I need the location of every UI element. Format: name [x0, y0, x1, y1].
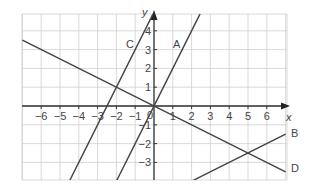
x-tick-label: −4: [73, 110, 86, 122]
y-tick-label: 4: [145, 25, 151, 37]
x-axis-label: x: [285, 111, 292, 123]
y-tick-label: −3: [138, 156, 151, 168]
x-tick-label: 2: [189, 110, 195, 122]
x-tick-label: −2: [110, 110, 123, 122]
y-axis-label: y: [141, 6, 149, 18]
x-tick-label: −5: [54, 110, 67, 122]
x-tick-label: 4: [226, 110, 232, 122]
line-label-a: A: [173, 38, 181, 50]
line-label-c: C: [126, 38, 134, 50]
y-tick-label: 3: [145, 44, 151, 56]
line-b: [192, 134, 286, 181]
x-tick-label: 3: [207, 110, 213, 122]
x-tick-label: 6: [264, 110, 270, 122]
line-label-b: B: [291, 127, 298, 139]
y-tick-label: 2: [145, 62, 151, 74]
x-tick-label: 5: [245, 110, 251, 122]
y-tick-label: 1: [145, 81, 151, 93]
line-label-d: D: [291, 162, 299, 174]
y-axis-arrow-icon: [151, 10, 158, 20]
y-tick-label: −2: [138, 138, 151, 150]
x-tick-label: −6: [35, 110, 48, 122]
coordinate-plane: −6−5−4−3−2−11234564321−1−2−30xyACBD: [0, 0, 310, 192]
